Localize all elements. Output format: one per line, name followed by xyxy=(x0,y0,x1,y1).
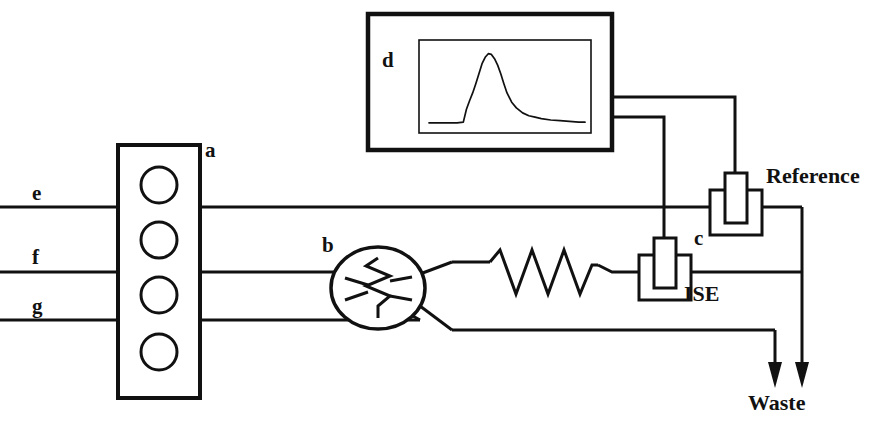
signal-wire-reference xyxy=(612,97,735,173)
reaction-coil xyxy=(490,250,598,294)
label-valve-b: b xyxy=(322,235,334,256)
reference-electrode xyxy=(710,173,762,235)
pump-roller xyxy=(141,334,177,370)
waste-arrow-e xyxy=(795,362,809,388)
label-electrodes-c: c xyxy=(694,228,703,249)
ise-inner-stem xyxy=(654,238,676,288)
pump-roller xyxy=(141,277,177,313)
label-line-g: g xyxy=(32,296,43,317)
injection-valve xyxy=(331,247,425,329)
signal-wire-ise xyxy=(612,117,664,238)
waste-arrow-g xyxy=(768,362,782,388)
label-pump-a: a xyxy=(205,140,216,161)
label-line-e: e xyxy=(32,183,41,204)
diagram-canvas xyxy=(0,0,875,421)
label-ise: ISE xyxy=(684,283,719,305)
fia-schematic-diagram: a b c d e f g ISE Reference Waste xyxy=(0,0,875,421)
label-detector-d: d xyxy=(382,50,394,71)
label-line-f: f xyxy=(32,247,39,268)
reference-inner-stem xyxy=(725,173,747,223)
peristaltic-pump xyxy=(118,145,200,398)
label-waste: Waste xyxy=(748,392,805,414)
pump-roller xyxy=(141,167,177,203)
pump-roller xyxy=(141,222,177,258)
label-reference: Reference xyxy=(766,165,860,187)
detector-unit xyxy=(368,14,612,150)
